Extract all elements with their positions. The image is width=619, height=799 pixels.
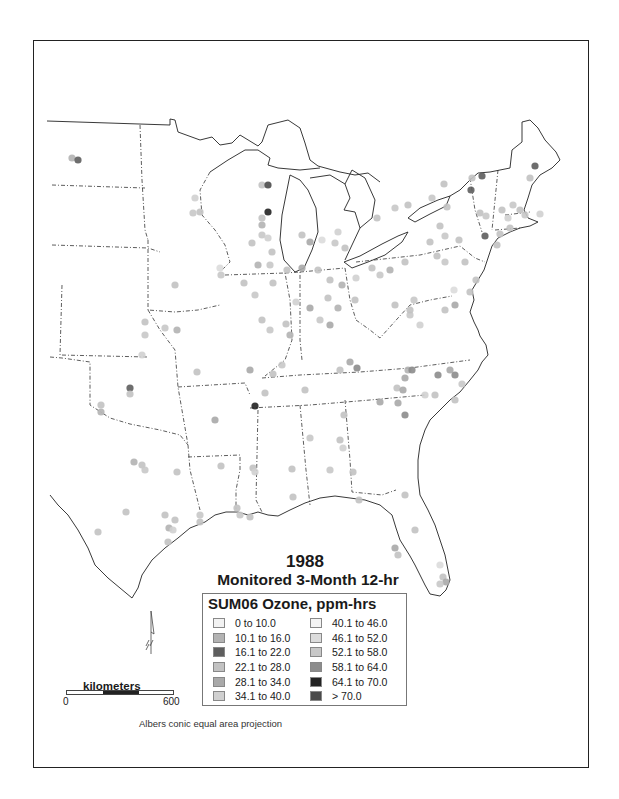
legend-item: 22.1 to 28.0 [213, 660, 290, 675]
scale-bar-min: 0 [63, 696, 69, 707]
legend-swatch [310, 691, 322, 701]
legend-label: 58.1 to 64.0 [332, 661, 387, 673]
legend-item: 10.1 to 16.0 [213, 631, 290, 646]
legend-label: 64.1 to 70.0 [332, 676, 387, 688]
legend-item: 40.1 to 46.0 [310, 616, 387, 631]
legend-label: 52.1 to 58.0 [332, 646, 387, 658]
legend-item: 16.1 to 22.0 [213, 645, 290, 660]
legend-item: 34.1 to 40.0 [213, 689, 290, 704]
legend-item: 0 to 10.0 [213, 616, 290, 631]
legend-swatch [213, 691, 225, 701]
legend-item: 64.1 to 70.0 [310, 674, 387, 689]
legend-item: 52.1 to 58.0 [310, 645, 387, 660]
legend-swatch [310, 662, 322, 672]
map-subtitle: Monitored 3-Month 12-hr [168, 571, 448, 589]
legend-label: > 70.0 [332, 690, 362, 702]
legend-label: 40.1 to 46.0 [332, 617, 387, 629]
legend-label: 0 to 10.0 [235, 617, 276, 629]
legend-swatch [310, 633, 322, 643]
legend-swatch [310, 647, 322, 657]
legend-column-1: 0 to 10.010.1 to 16.016.1 to 22.022.1 to… [213, 616, 290, 704]
scale-bar [66, 690, 174, 695]
legend-label: 10.1 to 16.0 [235, 632, 290, 644]
legend-label: 46.1 to 52.0 [332, 632, 387, 644]
legend-swatch [213, 677, 225, 687]
legend-label: 34.1 to 40.0 [235, 690, 290, 702]
legend-swatch [213, 662, 225, 672]
legend-label: 16.1 to 22.0 [235, 646, 290, 658]
legend-swatch [310, 677, 322, 687]
legend-label: 28.1 to 34.0 [235, 676, 290, 688]
legend: SUM06 Ozone, ppm-hrs 0 to 10.010.1 to 16… [202, 593, 407, 706]
projection-note: Albers conic equal area projection [139, 718, 282, 729]
legend-item: 58.1 to 64.0 [310, 660, 387, 675]
legend-column-2: 40.1 to 46.046.1 to 52.052.1 to 58.058.1… [310, 616, 387, 704]
legend-swatch [310, 618, 322, 628]
scale-bar-segment [103, 691, 139, 694]
legend-swatch [213, 647, 225, 657]
map-title-year: 1988 [200, 552, 410, 572]
legend-item: 28.1 to 34.0 [213, 674, 290, 689]
legend-swatch [213, 618, 225, 628]
scale-bar-max: 600 [163, 696, 180, 707]
legend-title: SUM06 Ozone, ppm-hrs [208, 595, 376, 612]
legend-item: > 70.0 [310, 689, 387, 704]
legend-swatch [213, 633, 225, 643]
legend-item: 46.1 to 52.0 [310, 631, 387, 646]
legend-label: 22.1 to 28.0 [235, 661, 290, 673]
